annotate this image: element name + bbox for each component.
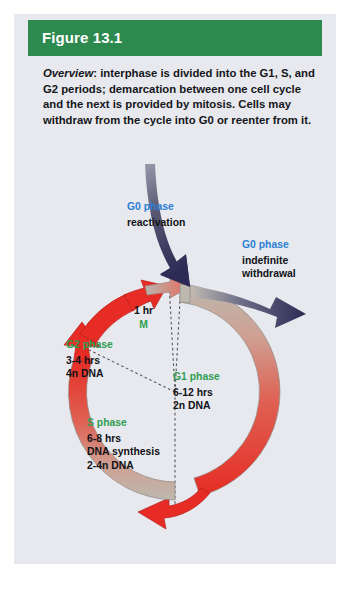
g1-phase-line-2: 2n DNA — [173, 399, 220, 413]
label-g0-reactivation: G0 phase reactivation — [127, 200, 185, 229]
label-m-phase: 1 hr M — [134, 304, 153, 331]
cell-cycle-diagram — [14, 14, 336, 564]
g1-phase-line-1: 6-12 hrs — [173, 386, 220, 400]
m-phase-duration: 1 hr — [134, 304, 153, 318]
label-g2-phase: G2 phase 3-4 hrs 4n DNA — [66, 338, 113, 381]
label-g0-withdrawal: G0 phase indefinite withdrawal — [242, 238, 296, 281]
label-s-phase: S phase 6-8 hrs DNA synthesis 2-4n DNA — [87, 416, 160, 472]
g2-phase-line-1: 3-4 hrs — [66, 354, 113, 368]
g0-withdrawal-line-2: withdrawal — [242, 267, 296, 281]
m-phase-title: M — [134, 318, 153, 332]
label-g1-phase: G1 phase 6-12 hrs 2n DNA — [173, 370, 220, 413]
s-phase-line-1: 6-8 hrs — [87, 432, 160, 446]
g2-phase-title: G2 phase — [66, 338, 113, 352]
s-phase-line-3: 2-4n DNA — [87, 459, 160, 473]
g1-phase-title: G1 phase — [173, 370, 220, 384]
g0-withdrawal-line-1: indefinite — [242, 254, 296, 268]
g2-phase-arc — [80, 294, 134, 343]
g0-reactivation-line-1: reactivation — [127, 216, 185, 230]
figure-panel: Figure 13.1 Overview: interphase is divi… — [14, 14, 336, 564]
cycle-entry-arc — [180, 284, 190, 303]
g2-phase-line-2: 4n DNA — [66, 367, 113, 381]
g0-reactivation-title: G0 phase — [127, 200, 185, 214]
g0-withdrawal-title: G0 phase — [242, 238, 296, 252]
s-phase-line-2: DNA synthesis — [87, 445, 160, 459]
s-phase-title: S phase — [87, 416, 160, 430]
